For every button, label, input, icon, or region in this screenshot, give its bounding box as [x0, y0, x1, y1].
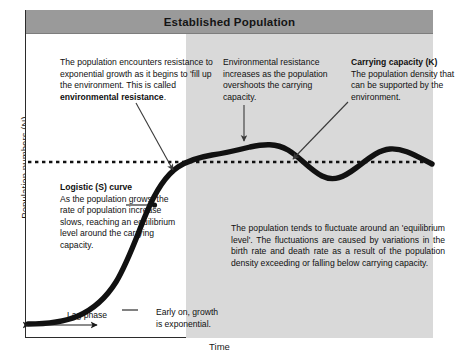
note-capacity-body: The population density that can be suppo…: [351, 69, 454, 102]
note-capacity-heading: Carrying capacity (K): [351, 57, 437, 67]
note-resistance-emphasis: environmental resistance: [60, 92, 164, 102]
note-overshoot: Environmental resistance increases as th…: [223, 57, 343, 103]
note-carrying-capacity: Carrying capacity (K)The population dens…: [351, 57, 459, 103]
note-resistance-body: The population encounters resistance to …: [60, 57, 213, 90]
note-environmental-resistance: The population encounters resistance to …: [60, 57, 220, 103]
note-resistance-tail: .: [164, 92, 166, 102]
note-logistic-body: As the population grows, the rate of pop…: [60, 194, 175, 250]
note-logistic-curve: Logistic (S) curveAs the population grow…: [60, 182, 185, 252]
note-early-growth: Early on, growth is exponential.: [156, 307, 226, 330]
plot-area: Established Population: [25, 10, 432, 338]
resistance-arrow: [136, 103, 173, 170]
x-axis-label: Time: [0, 341, 439, 352]
carrying-capacity-arrow: [293, 102, 348, 159]
label-lag-phase: Lag phase: [56, 310, 118, 322]
note-fluctuation: The population tends to fluctuate around…: [231, 223, 445, 269]
note-logistic-heading: Logistic (S) curve: [60, 182, 132, 192]
